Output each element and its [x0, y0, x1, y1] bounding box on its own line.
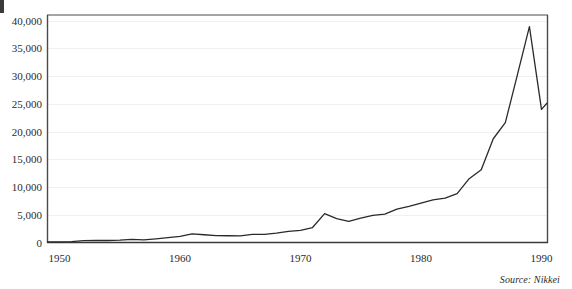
y-axis-tick-label: 10,000: [12, 181, 43, 193]
y-axis-tick-label: 35,000: [12, 42, 43, 54]
x-axis-tick-labels: 19501960197019801990: [49, 252, 553, 264]
x-axis-tick-label: 1950: [49, 252, 72, 264]
x-axis-tick-label: 1960: [169, 252, 192, 264]
y-axis-tick-label: 0: [37, 237, 43, 249]
plot-frame: [47, 15, 548, 243]
data-series-group: [48, 27, 547, 242]
y-axis-tick-label: 40,000: [12, 15, 43, 27]
nikkei-line-chart-figure: 05,00010,00015,00020,00025,00030,00035,0…: [0, 0, 572, 289]
data-series-line: [48, 27, 542, 242]
source-note: Source: Nikkei: [500, 274, 560, 285]
y-axis-tick-label: 20,000: [12, 126, 43, 138]
y-axis-tick-labels: 05,00010,00015,00020,00025,00030,00035,0…: [12, 15, 43, 249]
y-axis-tick-label: 5,000: [17, 209, 42, 221]
x-axis-tick-label: 1980: [410, 252, 433, 264]
x-axis-tick-label: 1970: [290, 252, 313, 264]
gridlines-group: [48, 22, 548, 216]
y-axis-tick-label: 25,000: [12, 98, 43, 110]
y-axis-tick-label: 15,000: [12, 153, 43, 165]
chart-canvas: 05,00010,00015,00020,00025,00030,00035,0…: [0, 0, 572, 289]
y-axis-tick-label: 30,000: [12, 70, 43, 82]
x-axis-tick-label: 1990: [530, 252, 553, 264]
